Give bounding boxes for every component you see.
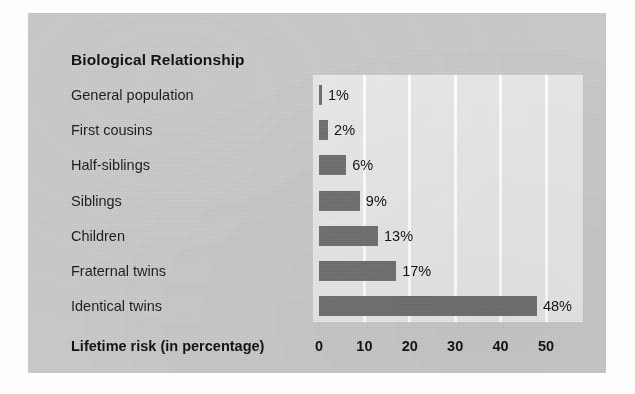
figure-panel: Biological Relationship General populati… bbox=[28, 13, 606, 373]
x-tick-label: 40 bbox=[493, 338, 509, 354]
x-tick-label: 30 bbox=[447, 338, 463, 354]
x-tick-label: 0 bbox=[315, 338, 323, 354]
x-tick-label: 10 bbox=[356, 338, 372, 354]
category-label: Siblings bbox=[71, 194, 122, 209]
bar bbox=[319, 191, 360, 211]
bar bbox=[319, 155, 346, 175]
category-label: General population bbox=[71, 88, 194, 103]
gridline-30 bbox=[454, 75, 457, 322]
bar bbox=[319, 226, 378, 246]
screenshot-root: Biological Relationship General populati… bbox=[0, 0, 635, 394]
gridline-50 bbox=[545, 75, 548, 322]
x-tick-label: 20 bbox=[402, 338, 418, 354]
gridline-20 bbox=[408, 75, 411, 322]
bar bbox=[319, 296, 537, 316]
bar bbox=[319, 261, 396, 281]
bar-value-label: 48% bbox=[543, 299, 572, 314]
bar-value-label: 6% bbox=[352, 158, 373, 173]
category-label: First cousins bbox=[71, 123, 152, 138]
bar bbox=[319, 85, 322, 105]
x-axis-title: Lifetime risk (in percentage) bbox=[71, 338, 264, 354]
category-label: Fraternal twins bbox=[71, 264, 166, 279]
gridline-40 bbox=[499, 75, 502, 322]
bar-value-label: 17% bbox=[402, 264, 431, 279]
bar-value-label: 2% bbox=[334, 123, 355, 138]
bar-value-label: 1% bbox=[328, 88, 349, 103]
category-label: Children bbox=[71, 229, 125, 244]
bar-value-label: 13% bbox=[384, 229, 413, 244]
chart-title: Biological Relationship bbox=[71, 51, 245, 69]
x-tick-label: 50 bbox=[538, 338, 554, 354]
bar bbox=[319, 120, 328, 140]
category-label: Half-siblings bbox=[71, 158, 150, 173]
bar-value-label: 9% bbox=[366, 194, 387, 209]
category-label: Identical twins bbox=[71, 299, 162, 314]
